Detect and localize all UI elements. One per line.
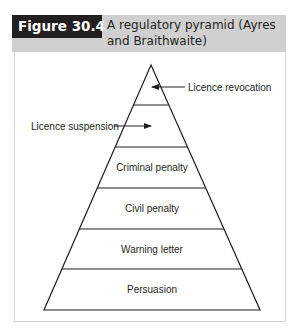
regulatory-pyramid-diagram: Licence revocation Licence suspension Cr…: [0, 0, 296, 330]
label-criminal-penalty: Criminal penalty: [116, 162, 188, 173]
label-warning-letter: Warning letter: [121, 244, 184, 255]
label-licence-revocation: Licence revocation: [188, 82, 271, 93]
label-civil-penalty: Civil penalty: [125, 203, 179, 214]
label-licence-suspension: Licence suspension: [31, 121, 119, 132]
label-persuasion: Persuasion: [127, 284, 177, 295]
